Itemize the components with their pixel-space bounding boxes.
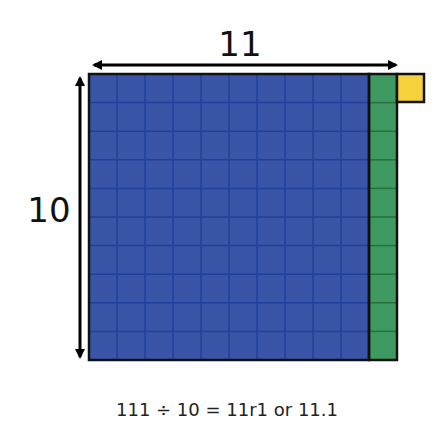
ones-square	[397, 74, 424, 102]
hundreds-block	[89, 74, 369, 360]
width-label: 11	[200, 24, 280, 64]
height-label: 10	[24, 190, 74, 230]
equation-caption: 111 ÷ 10 = 11r1 or 11.1	[0, 398, 444, 422]
tens-column	[369, 74, 397, 360]
